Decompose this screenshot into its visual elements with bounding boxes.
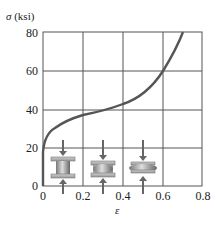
stress-strain-chart: σ (ksi) 80 60 40 20 0 (0, 0, 221, 227)
x-tick-0.6: 0.6 (148, 189, 178, 204)
x-tick-0.4: 0.4 (108, 189, 138, 204)
x-axis-label: ε (115, 204, 119, 216)
x-tick-0.2: 0.2 (68, 189, 98, 204)
x-tick-0.8: 0.8 (188, 189, 218, 204)
x-tick-0: 0 (28, 189, 58, 204)
